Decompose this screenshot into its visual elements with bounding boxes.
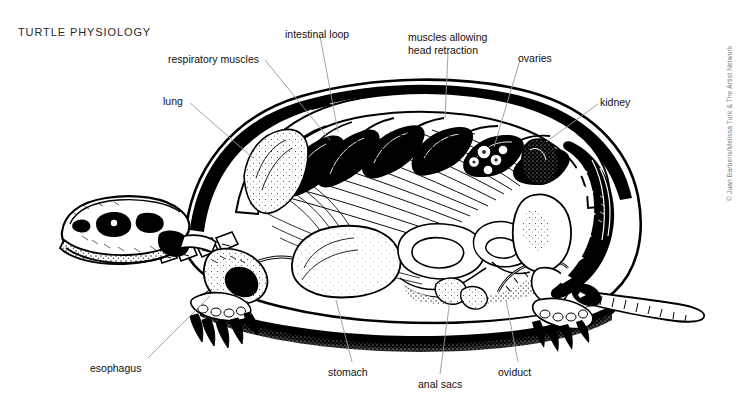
label-stomach: stomach — [328, 366, 368, 379]
label-esophagus: esophagus — [90, 362, 141, 375]
label-muscles-allowing-head-retraction: muscles allowing head retraction — [408, 31, 487, 56]
label-kidney: kidney — [600, 96, 630, 109]
turtle-anatomy-illustration — [0, 0, 750, 402]
page-title: TURTLE PHYSIOLOGY — [18, 26, 151, 38]
label-anal-sacs: anal sacs — [418, 378, 462, 391]
label-respiratory-muscles: respiratory muscles — [168, 53, 259, 66]
label-lung: lung — [163, 95, 183, 108]
label-intestinal-loop: intestinal loop — [285, 28, 349, 41]
turtle-physiology-figure: TURTLE PHYSIOLOGY respiratory musclesint… — [0, 0, 750, 402]
label-ovaries: ovaries — [518, 52, 552, 65]
copyright-credit: © Juan Barberis/Melissa Turk & The Artis… — [726, 41, 733, 201]
label-oviduct: oviduct — [498, 366, 531, 379]
kidney — [522, 139, 559, 184]
